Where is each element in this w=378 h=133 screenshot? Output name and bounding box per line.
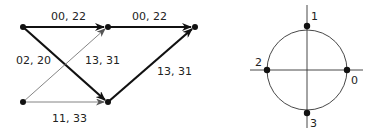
constellation-diagram: 0 1 2 3 xyxy=(250,5,363,130)
point-3 xyxy=(304,110,310,116)
trellis-diagram: 00, 22 00, 22 02, 20 13, 31 13, 31 11, 3… xyxy=(16,10,198,125)
point-label-2: 2 xyxy=(255,56,262,69)
edge-label-a-b: 00, 22 xyxy=(51,10,86,23)
edge-label-b-c: 00, 22 xyxy=(132,10,167,23)
node-b xyxy=(105,24,111,30)
edge-label-a-e: 02, 20 xyxy=(16,54,51,67)
point-label-1: 1 xyxy=(311,10,318,23)
node-c xyxy=(192,24,198,30)
point-0 xyxy=(344,67,350,73)
point-label-0: 0 xyxy=(351,74,358,87)
edge-label-e-c: 13, 31 xyxy=(157,65,192,78)
node-e xyxy=(105,99,111,105)
edge-label-d-e: 11, 33 xyxy=(52,112,87,125)
point-label-3: 3 xyxy=(310,117,317,130)
node-d xyxy=(20,99,26,105)
node-a xyxy=(20,24,26,30)
diagram-canvas: 00, 22 00, 22 02, 20 13, 31 13, 31 11, 3… xyxy=(0,0,378,133)
point-2 xyxy=(264,67,270,73)
edge-label-d-b: 13, 31 xyxy=(85,54,120,67)
point-1 xyxy=(304,23,310,29)
